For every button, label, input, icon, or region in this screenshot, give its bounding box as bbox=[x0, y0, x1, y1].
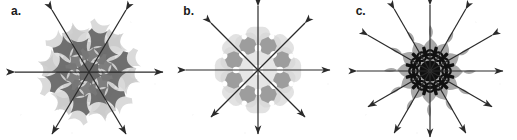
symmetry-axes bbox=[357, 5, 503, 137]
figure-root: a. bbox=[0, 0, 517, 140]
symmetry-axes bbox=[186, 6, 330, 134]
panel-a-graphic bbox=[0, 0, 172, 140]
panel-b-graphic bbox=[172, 0, 344, 140]
panel-b: b. bbox=[172, 0, 344, 140]
panel-c-graphic bbox=[345, 0, 517, 140]
panel-c: c. bbox=[345, 0, 517, 140]
panel-a: a. bbox=[0, 0, 172, 140]
